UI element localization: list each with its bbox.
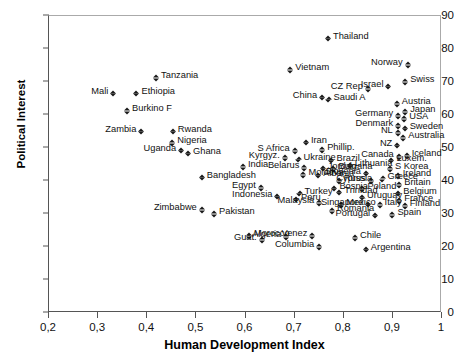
data-point (124, 108, 130, 111)
x-axis-label: Human Development Index (48, 338, 441, 352)
data-point-label: Zambia (105, 125, 136, 134)
data-point (405, 62, 411, 65)
x-tick-label: 1 (438, 321, 444, 333)
data-point (395, 173, 401, 176)
data-point-label: Zimbabwe (154, 204, 197, 213)
data-point (365, 201, 371, 204)
data-point-label: India (248, 161, 268, 170)
data-point (380, 176, 386, 179)
data-point (395, 113, 401, 116)
plot-area: TanzaniaMaliEthiopiaBurkino FZambiaRwand… (48, 15, 441, 312)
x-tick-label: 0,8 (335, 321, 351, 333)
x-tick-label: 0,9 (384, 321, 400, 333)
data-point (319, 94, 325, 97)
data-point-label: Swiss (410, 75, 434, 84)
x-tick-mark (343, 312, 344, 318)
data-point (387, 166, 393, 169)
data-point (359, 186, 365, 189)
data-point (309, 233, 315, 236)
data-point-label: Tanzania (161, 71, 198, 80)
data-point-label: Burkino F (132, 105, 172, 114)
x-tick-mark (146, 312, 147, 318)
data-point (153, 75, 159, 78)
data-point-label: Denmark (356, 120, 394, 129)
data-point (365, 86, 371, 89)
data-point-label: S Korea (395, 163, 429, 172)
data-point (402, 203, 408, 206)
x-tick-mark (245, 312, 246, 318)
data-point-label: Chile (360, 232, 381, 241)
data-point (363, 246, 369, 249)
data-point-label: Norway (371, 59, 403, 68)
y-tick-label: 0 (448, 306, 454, 318)
data-point (199, 207, 205, 210)
x-tick-mark (392, 312, 393, 318)
data-point (301, 165, 307, 168)
data-point-label: Venez (281, 229, 307, 238)
x-tick-label: 0,4 (138, 321, 154, 333)
x-tick-mark (294, 312, 295, 318)
data-point (211, 211, 217, 214)
y-tick-label: 30 (441, 207, 454, 219)
data-point (400, 135, 406, 138)
data-point (394, 101, 400, 104)
data-point-label: Canada (361, 150, 394, 159)
data-point (240, 164, 246, 167)
data-point (396, 181, 402, 184)
y-tick-label: 50 (441, 141, 454, 153)
data-point-label: Nigeria (177, 136, 206, 145)
data-point-label: Iceland (412, 149, 442, 158)
data-point-label: CZ Rep (331, 83, 363, 92)
data-point (402, 125, 408, 128)
y-tick-label: 10 (441, 273, 454, 285)
data-point (316, 244, 322, 247)
data-point (319, 147, 325, 150)
data-point (185, 150, 191, 153)
data-point-label: Rwanda (178, 125, 212, 134)
data-point-label: Finland (410, 200, 441, 209)
x-tick-label: 0,6 (237, 321, 253, 333)
data-point-label: Columbia (275, 241, 314, 250)
y-tick-label: 70 (441, 75, 454, 87)
data-point (402, 79, 408, 82)
data-point (395, 190, 401, 193)
data-point (325, 35, 331, 38)
data-point-label: Iran (311, 136, 327, 145)
data-point-label: Malaysia (278, 196, 315, 205)
data-point (138, 128, 144, 131)
data-point-label: NZ (380, 139, 392, 148)
x-tick-mark (97, 312, 98, 318)
scatter-chart: Political Interest Human Development Ind… (0, 0, 454, 357)
x-tick-label: 0,7 (286, 321, 302, 333)
data-point (292, 148, 298, 151)
data-point (296, 156, 302, 159)
data-point-label: Saudi A (334, 93, 366, 102)
data-point (300, 172, 306, 175)
data-point (395, 130, 401, 133)
data-point-label: Germany (355, 110, 393, 119)
data-point-label: Vietnam (295, 64, 329, 73)
data-point (368, 178, 374, 181)
data-point (331, 185, 337, 188)
data-point (401, 116, 407, 119)
data-point (389, 212, 395, 215)
data-point-label: Japan (410, 106, 435, 115)
x-tick-label: 0,2 (40, 321, 56, 333)
x-tick-mark (48, 312, 49, 318)
data-point-label: Algeria (252, 230, 281, 239)
data-point-label: Bangladesh (207, 171, 256, 180)
data-point-label: Argentina (371, 243, 411, 252)
data-point (385, 83, 391, 86)
data-point (396, 198, 402, 201)
data-point (199, 174, 205, 177)
data-point (303, 139, 309, 142)
data-point-label: Indonesia (232, 190, 272, 199)
data-point (282, 154, 288, 157)
data-point (328, 157, 334, 160)
data-point-label: Australia (408, 131, 444, 140)
y-tick-label: 80 (441, 42, 454, 54)
data-point (133, 90, 139, 93)
data-point (326, 96, 332, 99)
data-point-label: Pakistan (219, 208, 255, 217)
data-point (352, 235, 358, 238)
